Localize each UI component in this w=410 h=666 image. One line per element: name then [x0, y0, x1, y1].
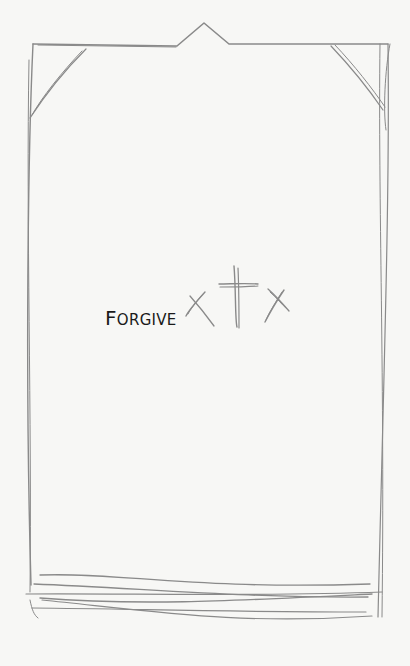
- card-title: FORGIVE: [105, 308, 177, 328]
- card-title-rest: ORGIVE: [117, 311, 177, 329]
- three-crosses-icon: [0, 0, 410, 666]
- card-title-initial: F: [105, 306, 117, 330]
